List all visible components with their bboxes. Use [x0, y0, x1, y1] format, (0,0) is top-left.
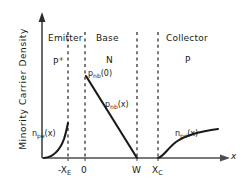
- region-type-base: N: [106, 56, 113, 65]
- base-curve: [86, 76, 137, 158]
- region-type-emitter-superscript: +: [58, 55, 63, 63]
- collector-curve-arg: (x): [187, 129, 198, 138]
- base-curve-subscript: nb: [110, 103, 118, 110]
- region-type-emitter: P+: [53, 56, 64, 67]
- x-tick-label-zero: 0: [81, 166, 87, 175]
- x-tick-label-xe-subscript: E: [67, 169, 71, 177]
- region-type-collector: P: [185, 56, 190, 65]
- y-axis-label: Minority Carrier Density: [18, 19, 28, 159]
- emitter-curve-arg: (x): [45, 129, 56, 138]
- boundary-lines: [68, 32, 158, 158]
- base-curve-arg: (x): [118, 100, 129, 109]
- x-tick-label-xc: XC: [152, 166, 163, 175]
- x-tick-label-xe-base: -X: [58, 165, 67, 175]
- base-peak-subscript: nb: [93, 72, 101, 79]
- curve-label-base: pnb(x): [105, 101, 129, 109]
- x-tick-label-xc-subscript: C: [158, 169, 163, 177]
- base-peak-arg: (0): [101, 69, 112, 78]
- region-name-emitter: Emitter: [48, 34, 83, 43]
- region-name-base: Base: [96, 34, 119, 43]
- minority-carrier-density-figure: Minority Carrier Density x Emitter Base …: [0, 0, 241, 196]
- curve-label-emitter: npe(x): [32, 130, 56, 138]
- curve-label-collector: npc(x): [175, 130, 198, 138]
- x-tick-label-w: W: [132, 166, 141, 175]
- x-axis-label: x: [231, 152, 236, 161]
- emitter-curve-subscript: pe: [37, 132, 45, 139]
- x-tick-label-xe: -XE: [58, 166, 71, 175]
- plot-canvas: [0, 0, 241, 196]
- region-name-collector: Collector: [166, 34, 208, 43]
- collector-curve-subscript: pc: [180, 132, 187, 139]
- curve-label-base-peak: pnb(0): [88, 70, 112, 78]
